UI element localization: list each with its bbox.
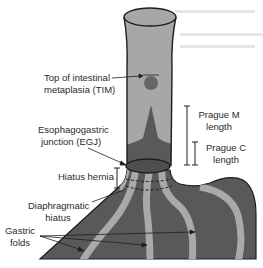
label-tim-line2: metaplasia (TIM): [44, 84, 108, 96]
label-tim-line1: Top of intestinal: [44, 72, 108, 84]
tube-top-opening: [124, 8, 176, 26]
label-prague-c-line1: Prague C: [201, 142, 251, 154]
hiatus-hernia-bar: [114, 168, 120, 188]
label-egj-line1: Esophagogastric: [38, 124, 104, 136]
label-prague-m: Prague M length: [194, 109, 244, 133]
esophagus-tube: [120, 8, 180, 173]
egj-ring: [126, 159, 170, 173]
label-gastric-line2: folds: [0, 237, 40, 249]
label-diaphragmatic-line1: Diaphragmatic: [28, 200, 88, 212]
prague-c-bar: [192, 142, 198, 165]
label-prague-c-line2: length: [201, 154, 251, 166]
label-diaphragmatic-hiatus: Diaphragmatic hiatus: [28, 200, 88, 224]
label-hiatus-hernia-text: Hiatus hernia: [58, 171, 114, 183]
label-tim: Top of intestinal metaplasia (TIM): [44, 72, 108, 96]
label-prague-m-line1: Prague M: [194, 109, 244, 121]
label-prague-c: Prague C length: [201, 142, 251, 166]
tim-island: [144, 76, 158, 90]
label-prague-m-line2: length: [194, 121, 244, 133]
label-egj: Esophagogastric junction (EGJ): [38, 124, 104, 148]
label-diaphragmatic-line2: hiatus: [28, 212, 88, 224]
label-egj-line2: junction (EGJ): [38, 136, 104, 148]
prague-m-bar: [184, 106, 190, 165]
label-hiatus-hernia: Hiatus hernia: [58, 171, 114, 183]
label-gastric-folds: Gastric folds: [0, 225, 40, 249]
label-gastric-line1: Gastric: [0, 225, 40, 237]
